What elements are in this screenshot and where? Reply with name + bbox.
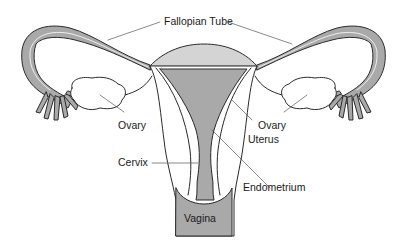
right-ovarian-ligament bbox=[255, 76, 282, 95]
reproductive-system-diagram: Fallopian Tube Ovary Ovary Uterus Cervix… bbox=[0, 0, 407, 252]
label-vagina: Vagina bbox=[184, 212, 216, 224]
label-fallopian-tube: Fallopian Tube bbox=[164, 15, 233, 27]
label-endometrium: Endometrium bbox=[243, 181, 306, 193]
left-ovary bbox=[71, 77, 126, 109]
label-ovary-left: Ovary bbox=[118, 119, 147, 131]
label-uterus: Uterus bbox=[248, 133, 279, 145]
uterine-fundus bbox=[150, 44, 257, 66]
label-ovary-right: Ovary bbox=[258, 119, 287, 131]
left-ovarian-ligament bbox=[125, 76, 152, 95]
right-ovary bbox=[282, 77, 337, 109]
label-cervix: Cervix bbox=[118, 156, 149, 168]
